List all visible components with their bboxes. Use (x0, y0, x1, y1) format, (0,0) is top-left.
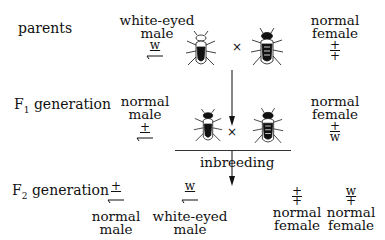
normal-female-fly-icon (250, 25, 284, 69)
parent-female-genotype: + + (325, 40, 345, 62)
f1-male-label: normal male (110, 95, 180, 121)
drosophila-cross-diagram: parents F1 generation F2 generation whit… (0, 0, 385, 240)
f2-normal-female-carrier: w + normal female (326, 186, 376, 232)
parent-male-genotype: w (140, 40, 170, 62)
white-eyed-male-fly-icon (184, 27, 218, 69)
f1-female-label: normal female (300, 95, 370, 121)
inbreeding-label: inbreeding (200, 156, 270, 169)
normal-female-fly-icon (252, 105, 284, 147)
f2-normal-female-homozygous: + + normal female (272, 186, 322, 232)
cross-symbol-parents: × (232, 40, 242, 54)
normal-male-fly-icon (192, 105, 224, 145)
f1-female-genotype: + w (325, 121, 345, 143)
y-chromosome-symbol (146, 55, 164, 60)
y-chromosome-symbol (136, 137, 154, 142)
cross-symbol-f1: × (227, 125, 237, 139)
y-chromosome-symbol (107, 199, 125, 204)
parent-female-label: normal female (300, 14, 370, 40)
f2-white-eyed-male: w white-eyed male (150, 180, 230, 236)
down-arrow-icon (226, 70, 238, 130)
f2-normal-male: + normal male (88, 180, 144, 236)
row-label-f1: F1 generation (14, 96, 111, 115)
f1-male-genotype: + (135, 122, 155, 144)
row-label-parents: parents (18, 20, 72, 36)
y-chromosome-symbol (181, 199, 199, 204)
